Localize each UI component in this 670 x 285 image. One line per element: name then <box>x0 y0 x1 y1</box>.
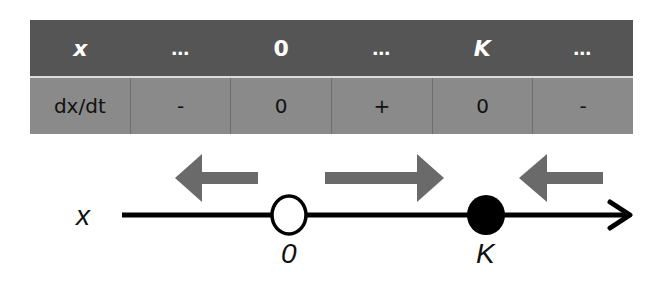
row-cell-sign-2: 0 <box>230 78 331 134</box>
row-cell-sign-4: 0 <box>432 78 533 134</box>
row-cell-sign-1: - <box>130 78 231 134</box>
header-cell-ellipsis-1: … <box>131 20 232 76</box>
phase-line-svg <box>0 140 670 285</box>
sign-table: x … 0 … K … dx/dt - 0 + 0 - <box>30 20 633 134</box>
point-label-k: K <box>476 238 495 270</box>
sign-table-row: dx/dt - 0 + 0 - <box>30 78 633 134</box>
sign-table-header: x … 0 … K … <box>30 20 633 78</box>
row-cell-label: dx/dt <box>30 78 130 134</box>
flow-arrow-right-icon <box>325 154 444 202</box>
header-cell-ellipsis-3: … <box>533 20 634 76</box>
header-cell-x: x <box>30 20 131 76</box>
open-circle-zero-icon <box>272 196 306 234</box>
row-cell-sign-3: + <box>331 78 432 134</box>
flow-arrow-left-1-icon <box>175 154 258 202</box>
axis-label-x: x <box>76 200 90 232</box>
header-cell-k: K <box>432 20 533 76</box>
row-cell-sign-5: - <box>532 78 633 134</box>
phase-line-diagram: x 0 K <box>0 140 670 285</box>
flow-arrow-left-2-icon <box>519 154 603 202</box>
header-cell-zero: 0 <box>231 20 332 76</box>
filled-circle-k-icon <box>467 195 505 235</box>
header-cell-ellipsis-2: … <box>332 20 433 76</box>
point-label-zero: 0 <box>281 238 297 270</box>
